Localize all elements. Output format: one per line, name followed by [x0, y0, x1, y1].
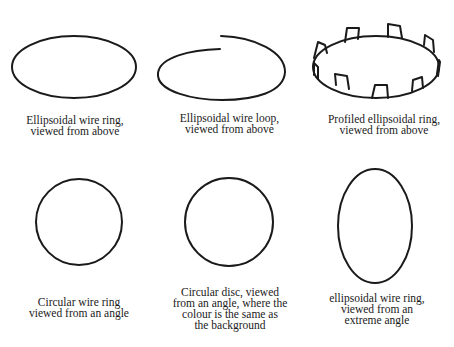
caption-ellipsoidal-wire-ring-above: Ellipsoidal wire ring, viewed from above: [0, 115, 150, 137]
caption-line: extreme angle: [312, 315, 442, 326]
caption-ellipsoidal-wire-ring-extreme: ellipsoidal wire ring, viewed from an ex…: [312, 293, 442, 326]
caption-circular-wire-ring-angle: Circular wire ring viewed from an angle: [4, 297, 154, 319]
circular-wire-ring-shape: [36, 179, 122, 265]
ellipsoidal-wire-ring-extreme-shape: [338, 169, 412, 283]
circular-disc-shape: [185, 178, 273, 266]
ellipsoidal-wire-ring-shape: [12, 36, 136, 98]
caption-line: viewed from above: [314, 125, 454, 136]
caption-line: viewed from an angle: [4, 308, 154, 319]
ellipsoidal-wire-loop-shape: [158, 36, 285, 100]
caption-profiled-ellipsoidal-ring-above: Profiled ellipsoidal ring, viewed from a…: [314, 114, 454, 136]
caption-line: viewed from above: [0, 126, 150, 137]
caption-ellipsoidal-wire-loop-above: Ellipsoidal wire loop, viewed from above: [152, 113, 307, 135]
caption-line: the background: [160, 320, 300, 331]
caption-circular-disc-angle: Circular disc, viewed from an angle, whe…: [160, 287, 300, 331]
caption-line: viewed from above: [152, 124, 307, 135]
profiled-ellipsoidal-ring-shape: [313, 24, 440, 98]
